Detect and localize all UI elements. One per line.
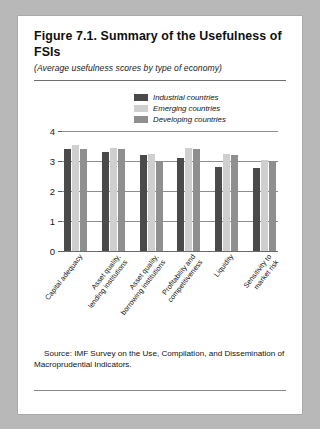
bar	[223, 154, 230, 252]
bar	[231, 155, 238, 251]
bar	[253, 168, 260, 251]
x-axis-labels: Capital adequacyAsset quality,lending in…	[62, 253, 278, 329]
legend-label: Developing countries	[153, 115, 226, 124]
legend-swatch-icon	[134, 94, 148, 101]
figure-subtitle: (Average usefulness scores by type of ec…	[34, 63, 286, 73]
bar	[261, 160, 268, 252]
bar-group	[177, 131, 200, 251]
bar	[72, 145, 79, 252]
grid-area	[62, 131, 278, 251]
bar	[215, 167, 222, 251]
y-axis-tick-label: 4	[50, 126, 55, 137]
x-axis-label: Liquidity	[212, 253, 235, 279]
source-note: Source: IMF Survey on the Use, Compilati…	[34, 348, 288, 371]
bar	[185, 148, 192, 252]
bar	[64, 149, 71, 251]
bar	[102, 152, 109, 251]
plot-area: 01234 Capital adequacyAsset quality,lend…	[34, 131, 286, 263]
y-axis: 01234	[34, 131, 60, 251]
figure-title: Figure 7.1. Summary of the Usefulness of…	[34, 29, 286, 60]
y-axis-tick-label: 2	[50, 186, 55, 197]
bar-group	[215, 131, 238, 251]
bar	[110, 148, 117, 252]
y-axis-tick-label: 3	[50, 156, 55, 167]
gridline	[62, 251, 278, 252]
header-divider	[34, 80, 286, 81]
figure-header: Figure 7.1. Summary of the Usefulness of…	[18, 16, 302, 263]
bar-group	[64, 131, 87, 251]
legend-label: Emerging countries	[153, 104, 220, 113]
bar	[148, 154, 155, 252]
legend-label: Industrial countries	[153, 93, 218, 102]
bar-groups	[62, 131, 278, 251]
bar	[269, 161, 276, 251]
legend-swatch-icon	[134, 105, 148, 112]
legend-item: Industrial countries	[134, 92, 286, 102]
bar	[118, 149, 125, 251]
bar-group	[102, 131, 125, 251]
y-axis-tick-label: 0	[50, 246, 55, 257]
bar	[80, 149, 87, 251]
x-axis-label: Capital adequacy	[43, 253, 84, 302]
chart-legend: Industrial countriesEmerging countriesDe…	[34, 92, 286, 124]
bar	[177, 158, 184, 251]
bar	[140, 155, 147, 251]
legend-swatch-icon	[134, 116, 148, 123]
footer-divider	[34, 390, 286, 391]
bar	[156, 161, 163, 251]
x-axis-label: Sensitivity tomarket risk	[242, 253, 280, 295]
legend-item: Emerging countries	[134, 103, 286, 113]
bar-group	[140, 131, 163, 251]
bar	[193, 149, 200, 251]
legend-item: Developing countries	[134, 114, 286, 124]
figure-card: Figure 7.1. Summary of the Usefulness of…	[18, 16, 302, 414]
y-axis-tick-label: 1	[50, 216, 55, 227]
bar-group	[253, 131, 276, 251]
